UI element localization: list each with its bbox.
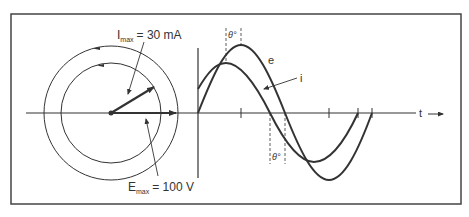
phase-diagram-figure: Imax= 30 mA Emax= 100 V θ° θ° e i t bbox=[0, 0, 469, 217]
i-leader-line bbox=[128, 42, 144, 94]
i-curve-label: i bbox=[300, 72, 302, 84]
figure-frame bbox=[11, 14, 461, 204]
theta-bottom-label: θ° bbox=[272, 152, 281, 162]
t-axis-label: t bbox=[419, 107, 422, 119]
waveform-diagram: θ° θ° e i t bbox=[198, 28, 443, 180]
i-max-label: Imax= 30 mA bbox=[117, 28, 182, 43]
i-leader-line-wave bbox=[264, 78, 297, 89]
i-phasor bbox=[111, 87, 154, 113]
e-curve-label: e bbox=[268, 54, 274, 66]
e-max-label: Emax= 100 V bbox=[128, 180, 194, 195]
theta-top-label: θ° bbox=[228, 30, 237, 40]
origin-dot bbox=[109, 111, 114, 116]
